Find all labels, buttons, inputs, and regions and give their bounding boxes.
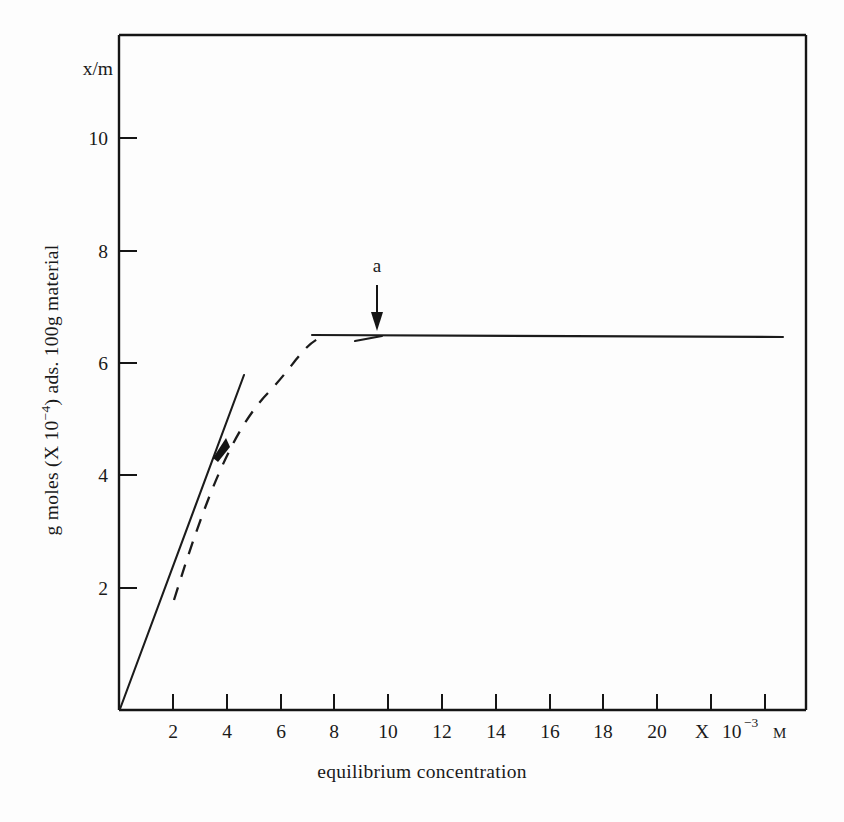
x-tick-label-2: 2 [168, 721, 178, 742]
annotation-a-label: a [373, 255, 382, 276]
x-tick-label-8: 8 [329, 721, 339, 742]
x-axis-multiplier: X 10 −3 M [695, 715, 786, 742]
y-tick-label-2: 2 [98, 578, 108, 599]
x-axis-caption: equilibrium concentration [317, 761, 526, 782]
y-axis-title-exponent: −4 [38, 405, 53, 420]
corner-label-x-over-m: x/m [83, 58, 113, 79]
y-axis-tick-labels: 10 8 6 4 2 [89, 128, 109, 599]
y-axis-title-post: ) ads. 100g material [41, 244, 63, 405]
annotation-a-group: a [371, 255, 383, 331]
series-initial-linear-solid [120, 375, 244, 709]
x-tick-label-14: 14 [486, 721, 506, 742]
series-transition-dashed [174, 337, 322, 600]
y-tick-label-10: 10 [89, 128, 109, 149]
y-tick-label-4: 4 [98, 465, 108, 486]
multiply-sign-icon: X [695, 721, 709, 742]
svg-text:g moles (X 10−4) ads. 100g mat: g moles (X 10−4) ads. 100g material [38, 244, 63, 535]
x-axis-unit-molar: M [773, 725, 786, 741]
x-tick-label-12: 12 [432, 721, 452, 742]
x-tick-label-18: 18 [593, 721, 613, 742]
x-axis-power-exponent: −3 [744, 715, 759, 730]
y-axis-ticks [119, 138, 137, 588]
figure-page: 10 8 6 4 2 2 4 6 8 10 12 [0, 0, 844, 822]
y-tick-label-8: 8 [98, 241, 108, 262]
x-tick-label-20: 20 [647, 721, 667, 742]
y-axis-title-pre: g moles (X 10 [41, 420, 63, 535]
y-axis-title: g moles (X 10−4) ads. 100g material [38, 244, 63, 535]
y-tick-label-6: 6 [98, 353, 108, 374]
x-axis-power-base: 10 [722, 721, 742, 742]
adsorption-isotherm-chart: 10 8 6 4 2 2 4 6 8 10 12 [0, 0, 844, 822]
annotation-a-arrow-head-icon [371, 312, 383, 331]
x-tick-label-6: 6 [276, 721, 286, 742]
x-tick-label-4: 4 [222, 721, 232, 742]
x-tick-label-16: 16 [540, 721, 560, 742]
plateau-merge-stub [355, 336, 382, 341]
x-tick-label-10: 10 [378, 721, 398, 742]
x-axis-tick-labels: 2 4 6 8 10 12 14 16 18 20 [168, 721, 667, 742]
x-axis-ticks [173, 694, 765, 710]
plot-frame [119, 35, 806, 710]
